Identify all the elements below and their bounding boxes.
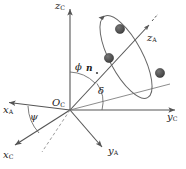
- origin-label: OC: [52, 98, 65, 109]
- angle-label-psi: ψ: [30, 112, 38, 122]
- vector-label-n: n: [86, 64, 93, 73]
- axis-label-xa: xA: [3, 105, 13, 116]
- construction-line-projection: [70, 84, 170, 110]
- axis-ya: [70, 110, 102, 147]
- construction-line-dashed: [42, 110, 70, 152]
- angle-label-delta: δ: [98, 86, 104, 96]
- axis-label-za: zA: [147, 33, 157, 44]
- satellite-sphere: [104, 53, 113, 62]
- axis-label-yc: yC: [167, 112, 177, 123]
- axis-xc: [15, 110, 70, 145]
- axis-label-zc: zC: [55, 1, 65, 12]
- axis-label-xc: xC: [3, 150, 13, 161]
- coordinate-frame-figure: zC yC xC xA yA zA OC ϕ δ ψ n: [0, 0, 186, 169]
- normal-vector-n: [96, 72, 98, 74]
- axis-label-ya: yA: [108, 146, 118, 157]
- angle-label-phi: ϕ: [75, 62, 82, 72]
- satellite-sphere: [155, 68, 164, 77]
- satellite-sphere: [115, 24, 124, 33]
- axis-za: [70, 14, 158, 110]
- figure-canvas: [0, 0, 186, 169]
- angle-arc-phi: [70, 72, 95, 83]
